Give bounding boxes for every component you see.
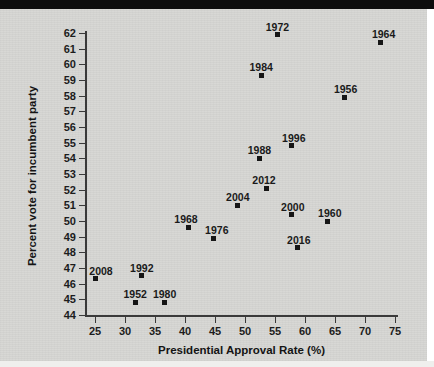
x-tick-label: 75 <box>382 326 408 337</box>
data-point-label: 1996 <box>274 133 314 144</box>
scatter-plot: 44454647484950515253545556575859606162 2… <box>0 0 434 367</box>
y-tick <box>79 221 85 222</box>
y-tick-label: 62 <box>52 28 76 39</box>
x-tick <box>335 317 336 323</box>
x-tick <box>95 317 96 323</box>
y-tick <box>79 111 85 112</box>
x-tick-label: 50 <box>232 326 258 337</box>
y-tick-label: 45 <box>52 294 76 305</box>
x-tick <box>245 317 246 323</box>
data-point-label: 1968 <box>166 214 206 225</box>
data-point-marker <box>139 273 144 278</box>
data-point-label: 1992 <box>122 263 162 274</box>
y-tick-label: 46 <box>52 279 76 290</box>
data-point-label: 2004 <box>218 192 258 203</box>
y-tick <box>79 33 85 34</box>
y-tick <box>79 127 85 128</box>
y-tick-label: 54 <box>52 153 76 164</box>
x-tick <box>185 317 186 323</box>
data-point-marker <box>235 203 240 208</box>
x-tick <box>395 317 396 323</box>
data-point-label: 2000 <box>273 202 313 213</box>
data-point-label: 1976 <box>197 225 237 236</box>
y-tick <box>79 237 85 238</box>
y-tick-label: 55 <box>52 138 76 149</box>
y-tick <box>79 143 85 144</box>
y-tick-label: 61 <box>52 44 76 55</box>
y-tick-label: 49 <box>52 232 76 243</box>
y-axis-title: Percent vote for incumbent party <box>26 76 38 276</box>
data-point-marker <box>289 143 294 148</box>
data-point-marker <box>342 95 347 100</box>
y-tick <box>79 284 85 285</box>
y-tick-label: 47 <box>52 263 76 274</box>
data-point-label: 1964 <box>364 29 404 40</box>
data-point-label: 1960 <box>310 208 350 219</box>
data-point-label: 1988 <box>239 145 279 156</box>
x-tick-label: 45 <box>202 326 228 337</box>
x-axis-title: Presidential Approval Rate (%) <box>85 344 398 356</box>
data-point-marker <box>275 32 280 37</box>
y-tick <box>79 49 85 50</box>
x-axis-line <box>85 315 398 317</box>
data-point-marker <box>264 186 269 191</box>
scanned-figure-page: 44454647484950515253545556575859606162 2… <box>0 0 434 367</box>
data-point-marker <box>133 300 138 305</box>
y-tick-label: 56 <box>52 122 76 133</box>
x-tick-label: 55 <box>262 326 288 337</box>
data-point-label: 1980 <box>145 289 185 300</box>
data-point-label: 2012 <box>244 175 284 186</box>
y-tick <box>79 252 85 253</box>
data-point-label: 1972 <box>257 22 297 33</box>
data-point-label: 2008 <box>81 266 121 277</box>
y-tick-label: 44 <box>52 310 76 321</box>
y-tick-label: 48 <box>52 247 76 258</box>
y-tick-label: 57 <box>52 106 76 117</box>
x-tick-label: 30 <box>112 326 138 337</box>
y-tick <box>79 299 85 300</box>
y-tick-label: 51 <box>52 200 76 211</box>
data-point-marker <box>93 276 98 281</box>
x-tick <box>215 317 216 323</box>
y-tick <box>79 158 85 159</box>
x-tick-label: 25 <box>82 326 108 337</box>
y-tick <box>79 96 85 97</box>
y-tick <box>79 190 85 191</box>
x-tick <box>155 317 156 323</box>
data-point-marker <box>257 156 262 161</box>
y-tick-label: 59 <box>52 75 76 86</box>
data-point-marker <box>259 73 264 78</box>
y-tick-label: 50 <box>52 216 76 227</box>
y-tick <box>79 315 85 316</box>
y-tick <box>79 64 85 65</box>
x-tick <box>305 317 306 323</box>
x-tick <box>365 317 366 323</box>
y-tick-label: 58 <box>52 91 76 102</box>
y-tick <box>79 174 85 175</box>
x-tick-label: 35 <box>142 326 168 337</box>
x-tick-label: 70 <box>352 326 378 337</box>
data-point-marker <box>295 245 300 250</box>
y-tick <box>79 80 85 81</box>
y-tick-label: 60 <box>52 59 76 70</box>
data-point-marker <box>211 236 216 241</box>
data-point-marker <box>162 300 167 305</box>
x-tick-label: 65 <box>322 326 348 337</box>
data-point-marker <box>325 219 330 224</box>
data-point-label: 1984 <box>241 62 281 73</box>
y-tick-label: 53 <box>52 169 76 180</box>
x-tick <box>275 317 276 323</box>
data-point-marker <box>289 212 294 217</box>
x-tick-label: 60 <box>292 326 318 337</box>
x-tick <box>125 317 126 323</box>
data-point-marker <box>186 225 191 230</box>
y-tick <box>79 205 85 206</box>
data-point-label: 1956 <box>326 84 366 95</box>
x-tick-label: 40 <box>172 326 198 337</box>
y-tick-label: 52 <box>52 185 76 196</box>
data-point-label: 2016 <box>279 235 319 246</box>
data-point-marker <box>378 40 383 45</box>
